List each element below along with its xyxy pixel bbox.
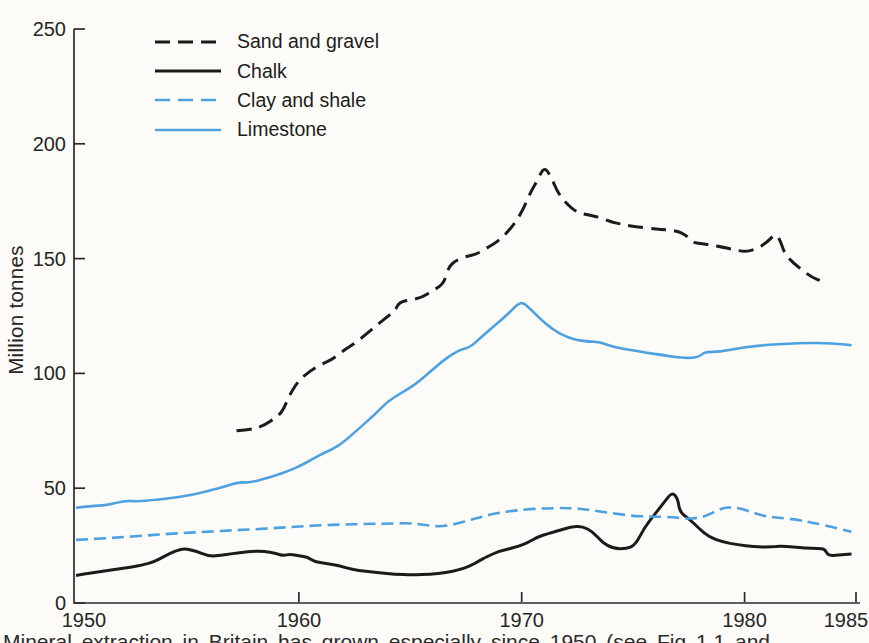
y-tick-label: 100 [33, 362, 66, 384]
x-tick-label: 1960 [277, 609, 322, 631]
mineral-extraction-chart-page: 05010015020025019501960197019801985 Mill… [0, 0, 869, 643]
x-tick-label: 1950 [62, 609, 107, 631]
chart-canvas: 05010015020025019501960197019801985 [0, 0, 869, 643]
sand-and-gravel-line-sample [154, 37, 222, 47]
series-sand-and-gravel [237, 170, 823, 431]
legend: Sand and gravel Chalk Clay and shale Lim… [154, 27, 379, 145]
legend-label: Limestone [237, 118, 327, 141]
legend-item-clay-and-shale: Clay and shale [154, 86, 379, 115]
legend-item-limestone: Limestone [154, 115, 379, 144]
x-tick-label: 1985 [824, 609, 869, 631]
legend-label: Chalk [237, 60, 287, 83]
legend-item-chalk: Chalk [154, 56, 379, 85]
legend-item-sand-and-gravel: Sand and gravel [154, 27, 379, 56]
legend-label: Sand and gravel [237, 30, 379, 53]
caption-text: Mineral extraction in Britain has grown … [3, 630, 869, 643]
series-clay-and-shale [76, 507, 852, 539]
clay-and-shale-line-sample [154, 95, 222, 105]
series-limestone [76, 303, 852, 508]
x-tick-label: 1970 [499, 609, 544, 631]
y-axis-title: Million tonnes [4, 245, 28, 375]
y-tick-label: 50 [44, 477, 66, 499]
x-tick-label: 1980 [722, 609, 767, 631]
limestone-line-sample [154, 125, 222, 135]
y-tick-label: 200 [33, 133, 66, 155]
legend-label: Clay and shale [237, 89, 366, 112]
chalk-line-sample [154, 66, 222, 76]
y-tick-label: 150 [33, 248, 66, 270]
series-chalk [76, 494, 852, 575]
y-tick-label: 250 [33, 18, 66, 40]
